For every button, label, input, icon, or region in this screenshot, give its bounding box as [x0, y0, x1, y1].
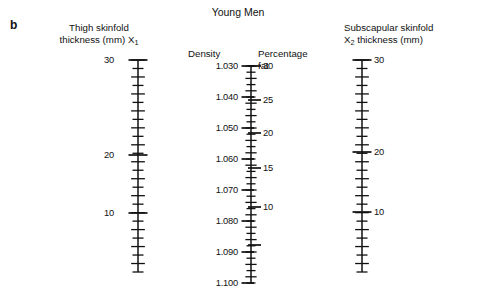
subscap-tick-30: 30 — [374, 55, 384, 65]
pctfat-tick-15: 15 — [263, 163, 273, 173]
density-tick-1-050: 1.050 — [216, 123, 238, 133]
pctfat-tick-20: 20 — [263, 128, 273, 138]
density-tick-1-080: 1.080 — [216, 216, 238, 226]
pctfat-tick-25: 25 — [263, 95, 273, 105]
thigh-tick-10: 10 — [104, 208, 114, 218]
density-tick-1-030: 1.030 — [216, 61, 238, 71]
subscap-tick-20: 20 — [374, 147, 384, 157]
pctfat-tick-30: 30 — [263, 61, 273, 71]
thigh-tick-30: 30 — [104, 55, 114, 65]
density-tick-1-100: 1.100 — [216, 278, 238, 288]
thigh-skinfold-scale — [120, 0, 156, 299]
density-tick-1-090: 1.090 — [216, 247, 238, 257]
panel-letter-b: b — [10, 18, 17, 32]
thigh-tick-20: 20 — [104, 150, 114, 160]
density-tick-1-070: 1.070 — [216, 185, 238, 195]
subscap-tick-10: 10 — [374, 207, 384, 217]
nomogram-figure: b Young Men Thigh skinfold thickness (mm… — [0, 0, 482, 299]
density-tick-1-040: 1.040 — [216, 92, 238, 102]
pctfat-tick-10: 10 — [263, 202, 273, 212]
density-tick-1-060: 1.060 — [216, 154, 238, 164]
density-percentage-fat-scale — [235, 0, 271, 299]
